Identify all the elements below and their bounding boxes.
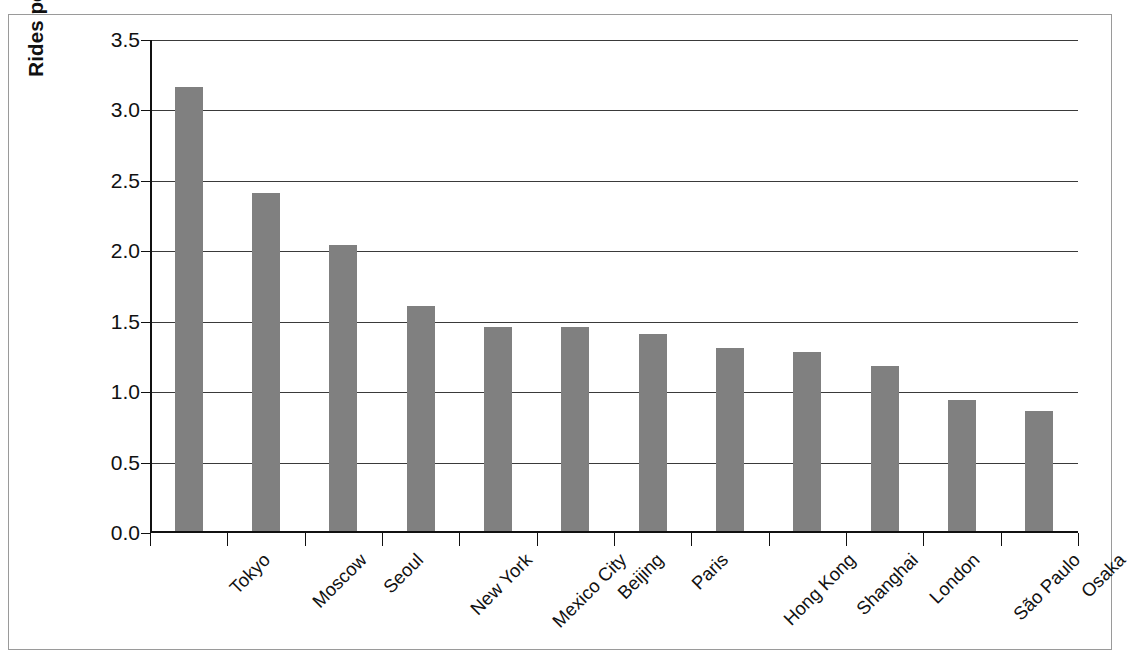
y-axis-tick-label: 1.5 — [78, 310, 140, 334]
y-axis-tick — [141, 322, 150, 323]
bar — [484, 327, 512, 531]
y-axis-tick-label: 1.0 — [78, 380, 140, 404]
y-axis-tick — [141, 110, 150, 111]
x-axis-tick — [1078, 533, 1079, 546]
bar — [329, 245, 357, 531]
x-axis-tick-label: Seoul — [379, 549, 428, 598]
y-axis-tick-label: 2.5 — [78, 169, 140, 193]
x-axis-tick-label: Paris — [687, 549, 732, 594]
y-axis-tick — [141, 463, 150, 464]
x-axis-tick-label: Shanghai — [852, 549, 923, 620]
x-axis-tick-label: Moscow — [308, 549, 372, 613]
plot-area — [150, 40, 1078, 533]
bar — [639, 334, 667, 531]
gridline — [150, 110, 1078, 111]
x-axis-tick-labels: TokyoMoscowSeoulNew YorkMexico CityBeiji… — [150, 533, 1078, 653]
bar — [948, 400, 976, 531]
x-axis-tick-label: London — [925, 549, 984, 608]
y-axis-tick — [141, 181, 150, 182]
x-axis-tick-label: Tokyo — [225, 549, 275, 599]
y-axis-tick — [141, 40, 150, 41]
gridline — [150, 392, 1078, 393]
gridline — [150, 181, 1078, 182]
bar — [716, 348, 744, 531]
bar — [793, 352, 821, 531]
y-axis-tick — [141, 392, 150, 393]
bar — [561, 327, 589, 531]
gridline — [150, 251, 1078, 252]
y-axis-tick-label: 2.0 — [78, 239, 140, 263]
bar — [252, 193, 280, 531]
x-axis-tick-label: Hong Kong — [779, 549, 860, 630]
gridline — [150, 40, 1078, 41]
gridline — [150, 322, 1078, 323]
gridline — [150, 463, 1078, 464]
y-axis-tick-label: 3.5 — [78, 28, 140, 52]
bar — [1025, 411, 1053, 531]
y-axis-tick — [141, 251, 150, 252]
bar — [407, 306, 435, 531]
y-axis-line — [150, 40, 152, 533]
x-axis-tick-label: New York — [466, 549, 537, 620]
y-axis-tick-label: 0.5 — [78, 451, 140, 475]
x-axis-tick-label: São Paulo — [1009, 549, 1085, 625]
y-axis-tick-label: 3.0 — [78, 98, 140, 122]
y-axis-tick — [141, 533, 150, 534]
y-axis-tick-labels: 0.00.51.01.52.02.53.03.5 — [78, 40, 140, 533]
bar — [175, 87, 203, 531]
bar — [871, 366, 899, 531]
y-axis-tick-label: 0.0 — [78, 521, 140, 545]
y-axis-title: Rides per year in billions — [14, 0, 58, 144]
